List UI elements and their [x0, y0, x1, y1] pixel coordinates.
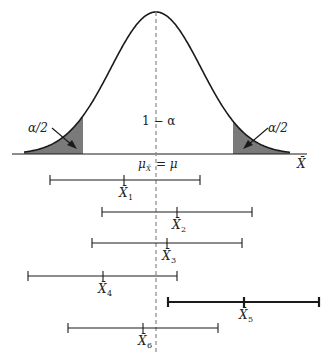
mu-symbol: μ	[138, 157, 146, 171]
sample-mean-label: X̄	[137, 333, 147, 348]
sample-mean-subscript: 2	[181, 225, 186, 234]
sample-mean-label: X̄	[171, 217, 181, 232]
confidence-interval-3: X̄3	[92, 238, 242, 265]
sample-mean-subscript: 3	[171, 256, 176, 265]
sample-mean-subscript: 4	[107, 289, 112, 298]
x-axis-variable-label: X̄	[296, 156, 306, 171]
normal-curve	[24, 12, 290, 152]
sample-mean-label: X̄	[161, 248, 171, 263]
sample-mean-subscript: 5	[248, 315, 253, 324]
sample-mean-subscript: 6	[147, 341, 152, 350]
center-area-label: 1 − α	[142, 114, 175, 128]
mu-subscript: X̄	[145, 164, 152, 173]
sample-mean-label: X̄	[97, 281, 107, 296]
confidence-interval-1: X̄1	[50, 175, 200, 202]
left-tail-label: α/2	[28, 121, 48, 135]
confidence-interval-diagram: α/2 α/2 1 − α μ X̄ = μ X̄ X̄1X̄2X̄3X̄4X̄…	[0, 0, 329, 359]
sample-mean-label: X̄	[238, 307, 248, 322]
confidence-interval-4: X̄4	[28, 271, 177, 298]
right-tail-label: α/2	[268, 121, 288, 135]
mu-equals: = μ	[156, 157, 178, 171]
sample-mean-subscript: 1	[128, 193, 133, 202]
sample-mean-label: X̄	[118, 185, 128, 200]
confidence-interval-6: X̄6	[68, 323, 218, 350]
confidence-interval-2: X̄2	[102, 207, 252, 234]
confidence-intervals: X̄1X̄2X̄3X̄4X̄5X̄6	[28, 175, 319, 350]
confidence-interval-5: X̄5	[168, 297, 319, 324]
mean-label: μ X̄ = μ	[138, 157, 178, 173]
